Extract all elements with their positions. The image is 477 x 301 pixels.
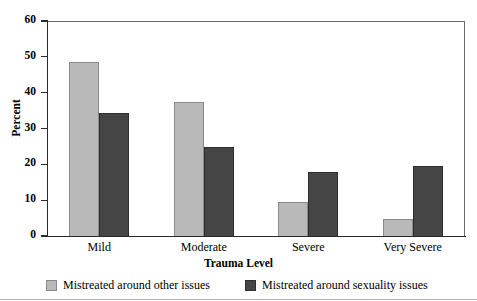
y-axis-tick-label: 10 <box>8 192 36 204</box>
x-axis-tick-label: Moderate <box>154 240 254 255</box>
y-axis-tick <box>41 20 48 21</box>
bar-moderate-series-1 <box>174 102 204 236</box>
y-axis-tick <box>41 164 48 165</box>
bar-moderate-series-2 <box>204 147 234 236</box>
chart-legend: Mistreated around other issues Mistreate… <box>0 278 477 298</box>
y-axis-tick <box>41 235 48 236</box>
x-axis-title: Trauma Level <box>0 257 477 269</box>
legend-item-other-issues: Mistreated around other issues <box>46 278 210 293</box>
y-axis-tick-label: 0 <box>8 228 36 240</box>
legend-swatch-light-gray-icon <box>46 280 57 291</box>
y-axis-tick-label: 60 <box>8 13 36 25</box>
y-axis-tick <box>41 56 48 57</box>
x-axis-tick-label: Mild <box>49 240 149 255</box>
bar-chart: 0102030405060 Percent MildModerateSevere… <box>0 0 477 301</box>
bar-mild-series-1 <box>69 62 99 236</box>
legend-item-sexuality-issues: Mistreated around sexuality issues <box>245 278 428 293</box>
bar-very-severe-series-1 <box>383 219 413 236</box>
x-axis-tick-label: Very Severe <box>363 240 463 255</box>
legend-swatch-dark-gray-icon <box>245 280 256 291</box>
y-axis-tick <box>41 128 48 129</box>
y-axis-tick-label: 50 <box>8 49 36 61</box>
bar-severe-series-2 <box>308 172 338 236</box>
y-axis-tick <box>41 92 48 93</box>
y-axis-title: Percent <box>10 78 22 158</box>
legend-label: Mistreated around other issues <box>63 278 210 293</box>
x-axis-tick-label: Severe <box>258 240 358 255</box>
page-edge-line <box>0 299 477 300</box>
legend-label: Mistreated around sexuality issues <box>262 278 428 293</box>
bar-severe-series-1 <box>278 202 308 236</box>
bar-mild-series-2 <box>99 113 129 236</box>
bar-very-severe-series-2 <box>413 166 443 236</box>
y-axis-tick <box>41 200 48 201</box>
x-axis-line <box>47 236 466 237</box>
y-axis-tick-label: 20 <box>8 156 36 168</box>
